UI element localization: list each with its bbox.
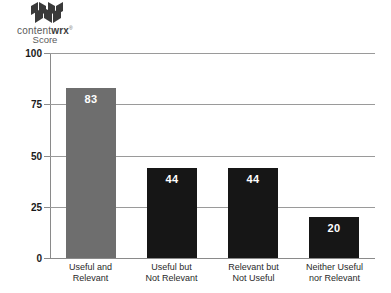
y-tick-0 bbox=[44, 258, 50, 259]
x-axis-category-label: Useful andRelevant bbox=[50, 262, 131, 284]
y-axis-labels: 0255075100 bbox=[0, 0, 42, 293]
y-axis-tick-label: 0 bbox=[6, 253, 42, 264]
y-axis-tick-label: 75 bbox=[6, 99, 42, 110]
bar-value-label: 83 bbox=[66, 93, 116, 105]
y-axis-tick-label: 25 bbox=[6, 202, 42, 213]
x-axis-category-label-line: Useful but bbox=[131, 262, 212, 273]
y-axis-tick-label: 100 bbox=[6, 48, 42, 59]
bar[interactable]: 44 bbox=[147, 168, 197, 258]
bar-value-label: 44 bbox=[228, 173, 278, 185]
y-tick-100 bbox=[44, 53, 50, 54]
x-axis-category-label-line: nor Relevant bbox=[294, 273, 375, 284]
y-axis-tick-label: 50 bbox=[6, 151, 42, 162]
y-tick-75 bbox=[44, 104, 50, 105]
bar[interactable]: 83 bbox=[66, 88, 116, 258]
bar-value-label: 20 bbox=[309, 222, 359, 234]
x-axis-category-label-line: Not Useful bbox=[213, 273, 294, 284]
x-axis-category-label-line: Relevant but bbox=[213, 262, 294, 273]
gridline-100 bbox=[50, 53, 375, 54]
x-axis-category-label-line: Not Relevant bbox=[131, 273, 212, 284]
x-axis-category-label-line: Useful and bbox=[50, 262, 131, 273]
x-axis-category-label: Relevant butNot Useful bbox=[213, 262, 294, 284]
bar[interactable]: 20 bbox=[309, 217, 359, 258]
bar[interactable]: 44 bbox=[228, 168, 278, 258]
y-tick-50 bbox=[44, 156, 50, 157]
y-tick-25 bbox=[44, 207, 50, 208]
x-axis-category-label: Neither Usefulnor Relevant bbox=[294, 262, 375, 284]
gridline-0 bbox=[50, 258, 375, 259]
x-axis-category-label-line: Neither Useful bbox=[294, 262, 375, 273]
bar-chart: 0255075100 83444420 Useful andRelevantUs… bbox=[0, 0, 391, 293]
x-axis-category-label: Useful butNot Relevant bbox=[131, 262, 212, 284]
x-axis-category-label-line: Relevant bbox=[50, 273, 131, 284]
bar-value-label: 44 bbox=[147, 173, 197, 185]
